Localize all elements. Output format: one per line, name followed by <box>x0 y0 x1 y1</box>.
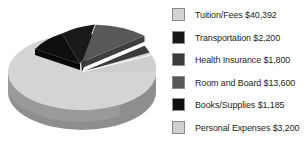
legend-item-tuition-fees[interactable]: Tuition/Fees $40,392 <box>172 6 282 22</box>
pie-chart-graphic <box>0 0 165 146</box>
legend-swatch-tuition-fees <box>172 8 185 21</box>
legend-swatch-books-supplies <box>172 98 185 111</box>
legend-item-transportation[interactable]: Transportation $2,200 <box>172 29 286 45</box>
legend-label-books-supplies: Books/Supplies $1,185 <box>195 99 284 110</box>
legend-label-tuition-fees: Tuition/Fees $40,392 <box>195 9 277 20</box>
legend-swatch-health-insurance <box>172 53 185 66</box>
pie-chart-figure: Tuition/Fees $40,392 Transportation $2,2… <box>0 0 308 146</box>
legend-item-books-supplies[interactable]: Books/Supplies $1,185 <box>172 96 290 112</box>
legend-swatch-personal-expenses <box>172 121 185 134</box>
legend-label-transportation: Transportation $2,200 <box>195 32 280 43</box>
legend-swatch-transportation <box>172 31 185 44</box>
legend-label-health-insurance: Health Insurance $1,800 <box>195 54 290 65</box>
legend-item-health-insurance[interactable]: Health Insurance $1,800 <box>172 51 296 67</box>
legend-item-personal-expenses[interactable]: Personal Expenses $3,200 <box>172 119 306 135</box>
legend-swatch-room-and-board <box>172 76 185 89</box>
chart-legend: Tuition/Fees $40,392 Transportation $2,2… <box>172 0 308 146</box>
legend-item-room-and-board[interactable]: Room and Board $13,600 <box>172 74 302 90</box>
legend-label-room-and-board: Room and Board $13,600 <box>195 77 295 88</box>
legend-label-personal-expenses: Personal Expenses $3,200 <box>195 122 299 133</box>
pie-svg <box>0 0 165 146</box>
